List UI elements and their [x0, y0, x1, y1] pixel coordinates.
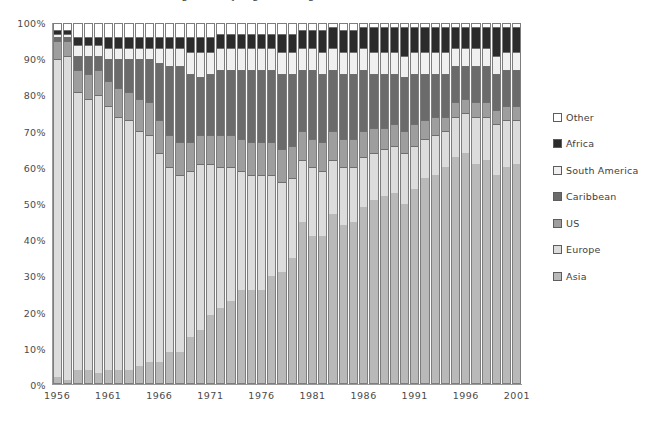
bar-1982[interactable] [318, 23, 327, 384]
legend-item-europe[interactable]: Europe [553, 237, 653, 264]
bar-1958[interactable] [73, 23, 82, 384]
segment-caribbean [318, 74, 327, 143]
segment-asia [277, 272, 286, 384]
bar-1968[interactable] [175, 23, 184, 384]
bar-1988[interactable] [380, 23, 389, 384]
x-axis-tick-label: 1961 [95, 390, 121, 401]
segment-other [186, 23, 195, 37]
legend-item-asia[interactable]: Asia [553, 263, 653, 290]
segment-caribbean [461, 66, 470, 98]
segment-europe [471, 117, 480, 164]
bar-1967[interactable] [165, 23, 174, 384]
bar-2001[interactable] [512, 23, 521, 384]
segment-asia [431, 175, 440, 384]
bar-1966[interactable] [155, 23, 164, 384]
legend-item-other[interactable]: Other [553, 104, 653, 131]
bar-1995[interactable] [451, 23, 460, 384]
segment-europe [431, 135, 440, 175]
segment-us [400, 131, 409, 153]
bar-1972[interactable] [216, 23, 225, 384]
segment-europe [247, 175, 256, 291]
segment-south-america [277, 52, 286, 74]
bar-1973[interactable] [226, 23, 235, 384]
bar-1970[interactable] [196, 23, 205, 384]
bar-1971[interactable] [206, 23, 215, 384]
bar-1969[interactable] [186, 23, 195, 384]
segment-other [339, 23, 348, 30]
y-axis-tick-label: 70% [24, 126, 46, 137]
segment-africa [267, 34, 276, 48]
segment-europe [441, 131, 450, 167]
bar-1993[interactable] [431, 23, 440, 384]
bar-1983[interactable] [328, 23, 337, 384]
segment-us [318, 142, 327, 171]
bar-1996[interactable] [461, 23, 470, 384]
segment-caribbean [155, 63, 164, 121]
bar-1965[interactable] [145, 23, 154, 384]
bar-1990[interactable] [400, 23, 409, 384]
bar-1964[interactable] [135, 23, 144, 384]
bar-1981[interactable] [308, 23, 317, 384]
segment-us [84, 74, 93, 99]
segment-asia [53, 377, 62, 384]
bar-1999[interactable] [492, 23, 501, 384]
segment-other [94, 23, 103, 37]
bar-1977[interactable] [267, 23, 276, 384]
segment-europe [420, 139, 429, 179]
bar-1992[interactable] [420, 23, 429, 384]
legend-item-africa[interactable]: Africa [553, 131, 653, 158]
bar-1980[interactable] [298, 23, 307, 384]
bar-1956[interactable] [53, 23, 62, 384]
bar-1979[interactable] [288, 23, 297, 384]
segment-asia [420, 178, 429, 384]
bar-1962[interactable] [114, 23, 123, 384]
segment-caribbean [482, 66, 491, 102]
bar-1994[interactable] [441, 23, 450, 384]
segment-asia [380, 196, 389, 384]
legend-item-south-america[interactable]: South America [553, 157, 653, 184]
bar-1959[interactable] [84, 23, 93, 384]
bar-1978[interactable] [277, 23, 286, 384]
bar-1991[interactable] [410, 23, 419, 384]
legend-item-caribbean[interactable]: Caribbean [553, 184, 653, 211]
segment-asia [104, 370, 113, 384]
bar-1974[interactable] [237, 23, 246, 384]
bar-1961[interactable] [104, 23, 113, 384]
y-axis-tick-label: 60% [24, 162, 46, 173]
segment-africa [328, 27, 337, 49]
segment-asia [441, 167, 450, 384]
segment-caribbean [73, 56, 82, 70]
bar-1975[interactable] [247, 23, 256, 384]
segment-africa [124, 37, 133, 48]
bar-1984[interactable] [339, 23, 348, 384]
segment-south-america [349, 52, 358, 74]
bar-1963[interactable] [124, 23, 133, 384]
segment-us [288, 146, 297, 178]
bar-1989[interactable] [390, 23, 399, 384]
segment-africa [482, 27, 491, 49]
segment-caribbean [502, 70, 511, 106]
y-axis-tick-label: 80% [24, 90, 46, 101]
bar-2000[interactable] [502, 23, 511, 384]
bar-1998[interactable] [482, 23, 491, 384]
segment-south-america [288, 52, 297, 74]
segment-africa [186, 37, 195, 51]
segment-africa [512, 27, 521, 52]
segment-caribbean [339, 74, 348, 139]
segment-caribbean [277, 74, 286, 150]
legend-item-us[interactable]: US [553, 210, 653, 237]
bar-1987[interactable] [369, 23, 378, 384]
segment-south-america [94, 45, 103, 56]
bar-1960[interactable] [94, 23, 103, 384]
bar-1997[interactable] [471, 23, 480, 384]
segment-caribbean [104, 59, 113, 81]
segment-asia [502, 167, 511, 384]
segment-south-america [216, 48, 225, 70]
segment-us [237, 139, 246, 171]
bar-1957[interactable] [63, 23, 72, 384]
bar-1986[interactable] [359, 23, 368, 384]
segment-asia [400, 204, 409, 385]
bar-1976[interactable] [257, 23, 266, 384]
bar-1985[interactable] [349, 23, 358, 384]
segment-us [420, 120, 429, 138]
